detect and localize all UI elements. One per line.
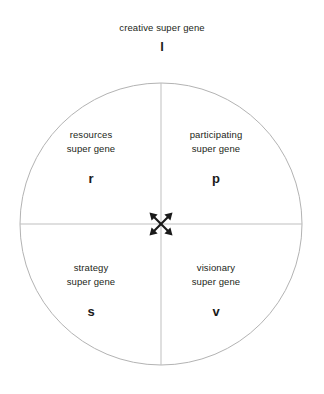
quadrant-top-right-title: participating super gene — [158, 128, 274, 155]
quadrant-bottom-right-title: visionary super gene — [158, 261, 274, 288]
quadrant-top-right-line1: participating — [190, 129, 243, 140]
quadrant-top-right-line2: super gene — [192, 143, 241, 154]
quadrant-top-right-letter: p — [158, 172, 274, 186]
diagram-canvas: creative super gene l resources super ge… — [0, 0, 324, 394]
quadrant-top-right: participating super gene p — [158, 128, 274, 186]
quadrant-top-left-line2: super gene — [67, 143, 116, 154]
quadrant-bottom-left-line1: strategy — [74, 262, 109, 273]
quadrant-bottom-left: strategy super gene s — [33, 261, 149, 319]
quadrant-top-left-line1: resources — [70, 129, 113, 140]
quadrant-top-left-letter: r — [33, 172, 149, 186]
quadrant-bottom-right-line2: super gene — [192, 276, 241, 287]
circle-axes-graphic — [0, 0, 324, 394]
quadrant-bottom-left-letter: s — [33, 305, 149, 319]
quadrant-bottom-left-line2: super gene — [67, 276, 116, 287]
quadrant-bottom-right: visionary super gene v — [158, 261, 274, 319]
quadrant-top-left: resources super gene r — [33, 128, 149, 186]
quadrant-bottom-right-letter: v — [158, 305, 274, 319]
quadrant-bottom-right-line1: visionary — [197, 262, 235, 273]
four-way-arrow-icon — [148, 211, 174, 237]
quadrant-bottom-left-title: strategy super gene — [33, 261, 149, 288]
quadrant-top-left-title: resources super gene — [33, 128, 149, 155]
